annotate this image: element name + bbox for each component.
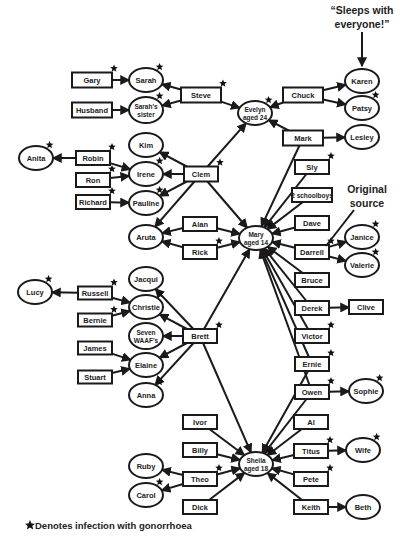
node-chuck: Chuck: [283, 88, 323, 103]
infection-star-icon: [215, 321, 223, 328]
infection-star-icon: [327, 377, 335, 384]
node-derek: Derek: [295, 301, 329, 315]
node-clem: Clem: [184, 159, 224, 182]
edge-alan-to-mary: [217, 228, 240, 234]
node-kim: Kim: [129, 133, 163, 157]
node-label: Christie: [132, 303, 160, 312]
node-label: Seven: [136, 329, 155, 336]
node-label: Darrell: [300, 248, 324, 257]
node-mark: Mark: [283, 131, 323, 146]
node-label: Mary: [248, 231, 264, 239]
node-wife: Wife: [346, 433, 380, 462]
node-james: James: [78, 342, 112, 355]
node-label: Elaine: [135, 361, 157, 370]
node-gary: Gary: [72, 65, 118, 88]
node-label: aged 14: [244, 239, 269, 247]
edge-chuck-to-evelyn: [270, 103, 283, 108]
node-label: Ernie: [303, 360, 322, 369]
infection-star-icon: [327, 321, 335, 328]
infection-star-icon: [156, 63, 164, 70]
edge-pete-to-sheila: [272, 468, 294, 474]
edge-steve-to-sarahs_sister: [162, 100, 181, 105]
node-lucy: Lucy: [18, 275, 52, 304]
edge-mark-to-evelyn: [269, 120, 289, 130]
node-victor: Victor: [295, 321, 335, 343]
node-ron: Ron: [76, 165, 116, 187]
edge-rick-to-aruta: [162, 241, 183, 247]
edge-billy-to-sheila: [217, 454, 240, 460]
annotation-line-1: Original: [347, 183, 387, 195]
node-label: Victor: [301, 332, 322, 341]
node-husband: Husband: [72, 103, 112, 118]
node-clive: Clive: [349, 300, 383, 314]
node-lesley: Lesley: [345, 125, 379, 149]
node-anita: Anita: [19, 141, 53, 170]
node-label: Owen: [302, 388, 323, 397]
edge-ron-to-irene: [110, 176, 129, 178]
node-russell: Russell: [78, 279, 118, 300]
node-label: aged 24: [243, 114, 268, 122]
node-label: Aruta: [136, 233, 156, 242]
node-label: Sly: [306, 163, 318, 172]
node-sophie: Sophie: [349, 374, 383, 403]
node-label: Steve: [191, 91, 211, 100]
edge-clem-to-kim: [160, 152, 187, 166]
node-schoolboys: 2 schoolboys: [291, 188, 333, 202]
infection-star-icon: [108, 165, 116, 172]
node-label: Sarah: [136, 76, 157, 85]
node-label: Billy: [192, 446, 209, 455]
edge-steve-to-sarah: [162, 84, 181, 89]
node-label: Dick: [192, 503, 209, 512]
node-label: Husband: [76, 106, 109, 115]
infection-star-icon: [156, 157, 164, 164]
node-label: Kim: [139, 141, 154, 150]
node-label: Carol: [136, 491, 155, 500]
node-label: aged 18: [244, 465, 269, 473]
node-titus: Titus: [294, 436, 334, 458]
infection-star-icon: [110, 279, 118, 286]
infection-star-icon: [372, 91, 380, 98]
infection-star-icon: [219, 80, 227, 87]
node-label: Irene: [137, 170, 155, 179]
node-karen: Karen: [345, 69, 379, 93]
node-label: Pete: [303, 475, 319, 484]
node-jacqui: Jacqui: [129, 267, 163, 291]
node-carol: Carol: [129, 478, 163, 507]
annotation-sleeps-with-everyone: “Sleeps with everyone!”: [330, 4, 393, 66]
edge-dave-to-mary: [272, 228, 295, 234]
node-label: Mark: [294, 134, 312, 143]
node-label: Lesley: [350, 133, 374, 142]
node-label: Stuart: [84, 373, 106, 382]
node-stuart: Stuart: [78, 371, 112, 384]
node-label: WAAF's: [134, 337, 159, 344]
node-label: Anna: [137, 391, 157, 400]
node-elaine: Elaine: [129, 353, 163, 377]
node-label: Karen: [351, 77, 373, 86]
node-label: Anita: [27, 154, 47, 163]
edge-theo-to-ruby: [162, 470, 183, 475]
node-label: Evelyn: [245, 106, 266, 114]
node-label: Sophie: [353, 387, 378, 396]
node-label: Keith: [302, 503, 321, 512]
node-dave: Dave: [295, 216, 329, 230]
node-label: Rick: [192, 248, 209, 257]
node-label: Russell: [82, 289, 109, 298]
node-pauline: Pauline: [129, 186, 163, 215]
node-bruce: Bruce: [295, 273, 329, 287]
annotation-line-2: everyone!”: [335, 18, 390, 30]
node-label: Lucy: [26, 288, 44, 297]
infection-star-icon: [110, 306, 118, 313]
edge-alan-to-aruta: [162, 228, 183, 233]
node-patsy: Patsy: [345, 91, 379, 120]
node-label: sister: [137, 111, 155, 118]
edge-theo-to-carol: [162, 484, 183, 490]
infection-star-icon: [265, 96, 273, 103]
node-janice: Janice: [345, 220, 379, 249]
node-bernie: Bernie: [78, 306, 118, 327]
node-aruta: Aruta: [129, 225, 163, 249]
infection-star-icon: [216, 159, 224, 166]
infection-star-icon: [108, 143, 116, 150]
edge-brett-to-mary: [204, 249, 250, 329]
infection-star-icon: [45, 275, 53, 282]
node-label: Pauline: [133, 199, 160, 208]
